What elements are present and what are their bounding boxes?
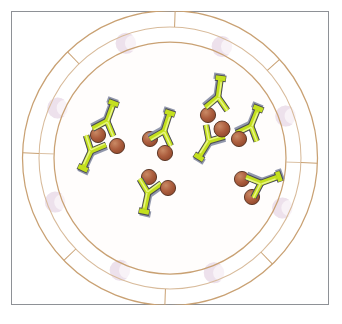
antigen-particle bbox=[214, 121, 230, 137]
antigen-particle bbox=[231, 131, 246, 146]
antigen-particle bbox=[160, 180, 175, 195]
antigen-particle bbox=[90, 127, 105, 142]
antigen-particle bbox=[200, 107, 215, 122]
cell-diagram-svg bbox=[11, 11, 329, 305]
figure-canvas bbox=[0, 0, 342, 324]
antigen-particle bbox=[109, 138, 124, 153]
antigen-particle bbox=[157, 145, 172, 160]
illustration-scene bbox=[11, 11, 329, 305]
